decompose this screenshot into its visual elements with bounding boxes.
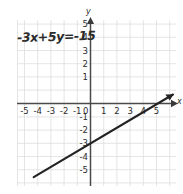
svg-text:-4: -4 [33, 106, 41, 116]
svg-text:-5: -5 [20, 106, 28, 116]
axis-name-labels: x y [85, 7, 182, 106]
svg-text:-1: -1 [80, 112, 88, 122]
x-axis-label: x [176, 97, 182, 106]
svg-text:3: 3 [83, 46, 88, 56]
svg-text:-4: -4 [80, 152, 88, 162]
svg-text:-2: -2 [60, 106, 68, 116]
svg-text:3: 3 [127, 106, 132, 116]
svg-text:-5: -5 [80, 165, 88, 175]
svg-text:-2: -2 [80, 125, 88, 135]
graph-figure: -5 -4 -3 -2 -1 0 1 2 3 4 5 5 4 3 2 1 -1 … [0, 0, 183, 194]
y-axis-label: y [85, 7, 91, 16]
svg-text:1: 1 [83, 72, 88, 82]
equation-annotation: -3x+5y=-15 [17, 28, 96, 45]
svg-text:-3: -3 [47, 106, 55, 116]
svg-text:2: 2 [83, 59, 88, 69]
svg-text:1: 1 [101, 106, 106, 116]
svg-text:5: 5 [154, 106, 159, 116]
svg-text:2: 2 [114, 106, 119, 116]
